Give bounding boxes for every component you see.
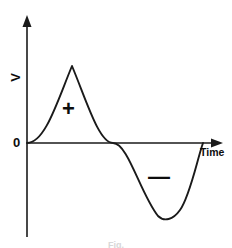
negative-half-cycle-symbol: — — [148, 166, 170, 188]
figure-caption: Fig. — [0, 240, 232, 248]
origin-label: 0 — [13, 136, 20, 149]
positive-half-cycle-symbol: + — [62, 98, 75, 120]
y-axis-arrow-icon — [23, 15, 32, 27]
figure-canvas — [0, 0, 232, 248]
x-axis-label: Time — [200, 147, 224, 158]
y-axis-label: V — [9, 73, 22, 82]
sine-wave-figure: V 0 Time + — Fig. — [0, 0, 232, 248]
